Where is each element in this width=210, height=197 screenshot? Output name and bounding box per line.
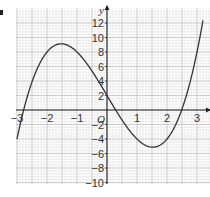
y-tick-label: −10 bbox=[85, 177, 104, 189]
x-tick-label: 2 bbox=[164, 112, 170, 124]
y-tick-label: 6 bbox=[98, 61, 104, 73]
minor-grid bbox=[16, 8, 210, 184]
y-tick-label: −8 bbox=[91, 162, 104, 174]
y-tick-label: 2 bbox=[98, 90, 104, 102]
tick-labels: −3−2−1123−10−8−6−4−224681012 bbox=[11, 17, 200, 189]
y-tick-label: −6 bbox=[91, 148, 104, 160]
x-tick-label: 3 bbox=[194, 112, 200, 124]
y-axis-label: y bbox=[98, 4, 104, 16]
y-tick-label: 12 bbox=[92, 17, 104, 29]
y-tick-label: 8 bbox=[98, 46, 104, 58]
cubic-graph: −3−2−1123−10−8−6−4−224681012 y O bbox=[0, 0, 210, 197]
origin-label: O bbox=[97, 113, 105, 125]
x-tick-label: 1 bbox=[134, 112, 140, 124]
y-tick-label: 10 bbox=[92, 32, 104, 44]
x-tick-label: −2 bbox=[41, 112, 54, 124]
y-tick-label: −4 bbox=[91, 133, 104, 145]
x-tick-label: −1 bbox=[71, 112, 84, 124]
